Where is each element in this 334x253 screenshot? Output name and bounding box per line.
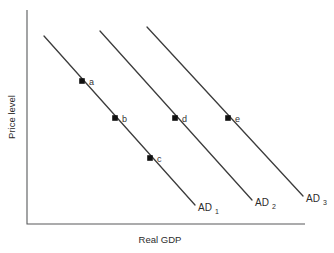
aggregate-demand-chart-figure: a b c d e AD 1 AD 2 AD 3 Real GDP Price … <box>0 0 334 253</box>
point-marker-c <box>147 155 153 161</box>
y-axis-title: Price level <box>6 95 17 139</box>
point-label-b: b <box>122 114 127 124</box>
chart-axes <box>27 10 305 224</box>
point-label-d: d <box>182 114 187 124</box>
chart-canvas: a b c d e AD 1 AD 2 AD 3 Real GDP Price … <box>0 0 334 253</box>
ad2-label: AD <box>255 197 269 208</box>
ad3-label-subscript: 3 <box>323 199 327 206</box>
ad1-label: AD <box>198 202 212 213</box>
point-marker-a <box>79 78 85 84</box>
point-marker-d <box>172 115 178 121</box>
ad3-label: AD <box>306 193 320 204</box>
point-marker-e <box>225 115 231 121</box>
point-label-c: c <box>157 154 162 164</box>
ad1-label-subscript: 1 <box>215 208 219 215</box>
point-label-e: e <box>235 114 240 124</box>
x-axis-title: Real GDP <box>139 234 182 245</box>
point-marker-b <box>112 115 118 121</box>
point-label-a: a <box>89 77 94 87</box>
ad2-label-subscript: 2 <box>272 203 276 210</box>
